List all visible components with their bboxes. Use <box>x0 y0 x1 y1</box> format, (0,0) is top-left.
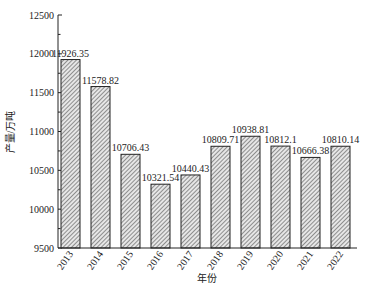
bar-2020 <box>271 146 290 248</box>
value-label: 11926.35 <box>52 48 89 59</box>
value-label: 10440.43 <box>172 163 210 174</box>
x-tick-label: 2016 <box>145 249 165 272</box>
x-tick-label: 2013 <box>55 249 75 272</box>
bar-2015 <box>121 154 140 248</box>
x-tick-label: 2022 <box>325 249 345 272</box>
x-tick-label: 2020 <box>265 249 285 272</box>
bar-2014 <box>91 87 110 248</box>
bar-2022 <box>331 146 350 248</box>
bar-2017 <box>181 175 200 248</box>
y-tick-label: 11500 <box>29 87 54 98</box>
value-label: 10809.71 <box>202 134 240 145</box>
value-label: 10666.38 <box>292 145 330 156</box>
x-tick-label: 2015 <box>115 249 135 272</box>
y-tick-label: 12000 <box>29 48 54 59</box>
y-tick-label: 10000 <box>29 204 54 215</box>
y-axis-title: 产量/万吨 <box>4 111 16 154</box>
x-axis-title: 年份 <box>197 272 217 284</box>
bar-2013 <box>61 60 80 248</box>
bar-2021 <box>301 157 320 248</box>
x-tick-label: 2018 <box>205 249 225 272</box>
y-tick-label: 10500 <box>29 165 54 176</box>
bar-chart: 9500100001050011000115001200012500 11926… <box>0 0 369 295</box>
bar-2018 <box>211 146 230 248</box>
x-axis: 2013201420152016201720182019202020212022 <box>55 248 357 272</box>
bars: 11926.3511578.8210706.4310321.5410440.43… <box>52 48 359 248</box>
x-tick-label: 2021 <box>295 249 315 272</box>
value-label: 11578.82 <box>82 75 119 86</box>
y-tick-label: 12500 <box>29 10 54 21</box>
y-tick-label: 9500 <box>34 243 54 254</box>
y-axis: 9500100001050011000115001200012500 <box>29 10 62 254</box>
bar-2019 <box>241 136 260 248</box>
x-tick-label: 2019 <box>235 249 255 272</box>
value-label: 10810.14 <box>322 134 360 145</box>
y-tick-label: 11000 <box>29 126 54 137</box>
x-tick-label: 2017 <box>175 249 195 272</box>
value-label: 10812.1 <box>264 134 297 145</box>
value-label: 10706.43 <box>112 142 150 153</box>
bar-2016 <box>151 184 170 248</box>
x-tick-label: 2014 <box>85 249 105 272</box>
